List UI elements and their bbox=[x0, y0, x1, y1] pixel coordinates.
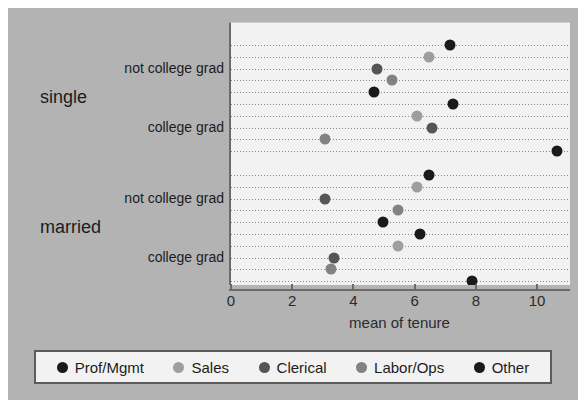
legend-marker-dot-icon bbox=[474, 362, 485, 373]
gridline bbox=[231, 199, 570, 200]
legend-label: Prof/Mgmt bbox=[75, 359, 144, 376]
legend-marker-dot-icon bbox=[173, 362, 184, 373]
data-point bbox=[423, 51, 434, 62]
gridline bbox=[231, 45, 570, 46]
x-axis-tick bbox=[291, 284, 293, 290]
x-axis-tick bbox=[475, 284, 477, 290]
gridline bbox=[231, 258, 570, 259]
y-axis-subgroup-label: not college grad bbox=[124, 60, 224, 76]
y-axis-subgroup-label: college grad bbox=[148, 249, 224, 265]
gridline bbox=[231, 104, 570, 105]
data-point bbox=[368, 87, 379, 98]
x-axis-tick-label: 2 bbox=[288, 292, 296, 309]
x-axis-tick bbox=[230, 284, 232, 290]
gridline bbox=[231, 269, 570, 270]
data-point bbox=[393, 205, 404, 216]
x-axis-tick bbox=[536, 284, 538, 290]
y-axis-group-label: single bbox=[40, 87, 87, 108]
legend-label: Labor/Ops bbox=[374, 359, 444, 376]
x-axis-tick-label: 4 bbox=[349, 292, 357, 309]
plot-panel bbox=[229, 22, 570, 285]
chart-legend: Prof/MgmtSalesClericalLabor/OpsOther bbox=[34, 350, 552, 384]
data-point bbox=[414, 229, 425, 240]
legend-item[interactable]: Clerical bbox=[259, 359, 327, 376]
legend-item[interactable]: Sales bbox=[173, 359, 229, 376]
legend-marker-dot-icon bbox=[259, 362, 270, 373]
legend-label: Sales bbox=[191, 359, 229, 376]
chart-figure: 0246810 mean of tenure not college gradc… bbox=[0, 0, 586, 408]
data-point bbox=[319, 134, 330, 145]
legend-label: Other bbox=[492, 359, 530, 376]
x-axis-tick-label: 0 bbox=[227, 292, 235, 309]
legend-marker-dot-icon bbox=[57, 362, 68, 373]
gridline bbox=[231, 69, 570, 70]
y-axis-subgroup-label: not college grad bbox=[124, 190, 224, 206]
data-point bbox=[328, 252, 339, 263]
gridline bbox=[231, 187, 570, 188]
gridline bbox=[231, 92, 570, 93]
x-axis-tick-label: 8 bbox=[472, 292, 480, 309]
data-point bbox=[411, 181, 422, 192]
gridline bbox=[231, 222, 570, 223]
gridline bbox=[231, 128, 570, 129]
data-point bbox=[371, 63, 382, 74]
data-point bbox=[411, 110, 422, 121]
x-axis-tick-label: 6 bbox=[410, 292, 418, 309]
gridline bbox=[231, 175, 570, 176]
gridline bbox=[231, 151, 570, 152]
data-point bbox=[377, 217, 388, 228]
data-point bbox=[319, 193, 330, 204]
gridline bbox=[231, 281, 570, 282]
y-axis-group-label: married bbox=[40, 217, 101, 238]
data-point bbox=[423, 170, 434, 181]
legend-item[interactable]: Prof/Mgmt bbox=[57, 359, 144, 376]
data-point bbox=[448, 99, 459, 110]
data-point bbox=[445, 40, 456, 51]
gridline bbox=[231, 139, 570, 140]
gridline bbox=[231, 57, 570, 58]
y-axis-subgroup-label: college grad bbox=[148, 119, 224, 135]
data-point bbox=[552, 146, 563, 157]
gridline bbox=[231, 116, 570, 117]
data-point bbox=[426, 122, 437, 133]
gridline bbox=[231, 234, 570, 235]
legend-label: Clerical bbox=[277, 359, 327, 376]
data-point bbox=[325, 264, 336, 275]
x-axis-title: mean of tenure bbox=[229, 314, 570, 331]
gridline bbox=[231, 80, 570, 81]
x-axis-tick bbox=[414, 284, 416, 290]
legend-item[interactable]: Labor/Ops bbox=[356, 359, 444, 376]
data-point bbox=[387, 75, 398, 86]
data-point bbox=[393, 240, 404, 251]
legend-marker-dot-icon bbox=[356, 362, 367, 373]
x-axis-tick bbox=[352, 284, 354, 290]
x-axis-tick-label: 10 bbox=[529, 292, 546, 309]
x-axis-line bbox=[229, 289, 570, 291]
legend-item[interactable]: Other bbox=[474, 359, 530, 376]
